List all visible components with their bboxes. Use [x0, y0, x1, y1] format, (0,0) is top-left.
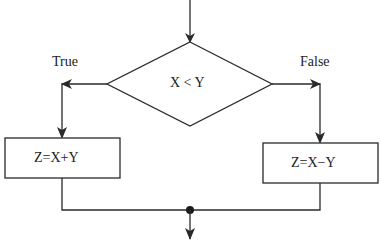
merge-connector-left [62, 178, 190, 210]
true-branch-connector [62, 84, 107, 137]
decision-label: X < Y [170, 75, 205, 91]
process-left-label: Z=X+Y [34, 150, 79, 166]
flowchart-canvas: X < Y True False Z=X+Y Z=X−Y [0, 0, 381, 241]
true-branch-label: True [52, 54, 78, 70]
merge-connector-right [190, 183, 320, 210]
false-branch-connector [272, 84, 320, 142]
process-right-label: Z=X−Y [291, 155, 336, 171]
flowchart-graphics [0, 0, 381, 241]
false-branch-label: False [300, 54, 330, 70]
